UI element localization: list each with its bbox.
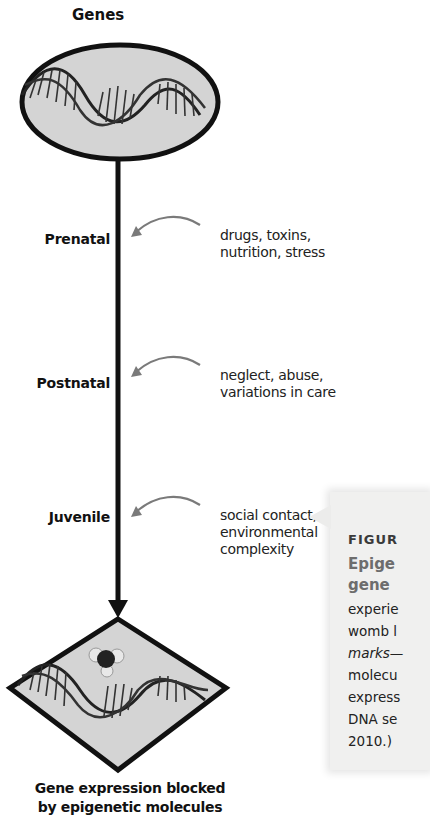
cause-line: environmental bbox=[220, 524, 318, 541]
caption-italic-term: marks— bbox=[348, 645, 403, 661]
figure-label: FIGUR bbox=[348, 532, 398, 547]
stage-label-postnatal: Postnatal bbox=[0, 375, 110, 391]
cause-line: complexity bbox=[220, 541, 318, 558]
cause-line: drugs, toxins, bbox=[220, 227, 325, 244]
caption-body-line: molecu bbox=[348, 664, 403, 686]
timeline-arrowhead bbox=[108, 600, 128, 618]
bottom-label-line: Gene expression blocked bbox=[0, 779, 260, 798]
cause-postnatal: neglect, abuse, variations in care bbox=[220, 367, 336, 401]
caption-heading: Epige gene bbox=[348, 554, 395, 596]
cause-line: nutrition, stress bbox=[220, 244, 325, 261]
cause-line: variations in care bbox=[220, 384, 336, 401]
caption-body-line: marks— bbox=[348, 642, 403, 664]
cause-line: neglect, abuse, bbox=[220, 367, 336, 384]
postnatal-arrow-icon bbox=[136, 357, 200, 372]
caption-body-line: womb l bbox=[348, 620, 403, 642]
caption-body-line: 2010.) bbox=[348, 730, 403, 752]
cause-juvenile: social contact, environmental complexity bbox=[220, 507, 318, 558]
caption-body: experie womb l marks— molecu express DNA… bbox=[348, 598, 403, 752]
caption-body-line: DNA se bbox=[348, 708, 403, 730]
caption-body-line: experie bbox=[348, 598, 403, 620]
cause-prenatal: drugs, toxins, nutrition, stress bbox=[220, 227, 325, 261]
dna-helix-with-methyl-molecule-in-diamond-icon bbox=[10, 619, 226, 770]
caption-body-line: express bbox=[348, 686, 403, 708]
stage-label-prenatal: Prenatal bbox=[0, 231, 110, 247]
bottom-label-line: by epigenetic molecules bbox=[0, 798, 260, 817]
prenatal-arrow-icon bbox=[136, 217, 200, 232]
caption-heading-line: Epige bbox=[348, 554, 395, 575]
stage-label-juvenile: Juvenile bbox=[0, 509, 110, 525]
juvenile-arrow-icon bbox=[136, 497, 200, 512]
caption-pointer bbox=[309, 505, 331, 529]
dna-helix-in-oval-icon bbox=[22, 45, 218, 159]
caption-heading-line: gene bbox=[348, 575, 395, 596]
bottom-label: Gene expression blocked by epigenetic mo… bbox=[0, 779, 260, 817]
cause-line: social contact, bbox=[220, 507, 318, 524]
